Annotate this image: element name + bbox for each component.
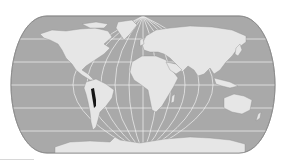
- world-map: [0, 0, 286, 162]
- footer-divider: [0, 159, 34, 160]
